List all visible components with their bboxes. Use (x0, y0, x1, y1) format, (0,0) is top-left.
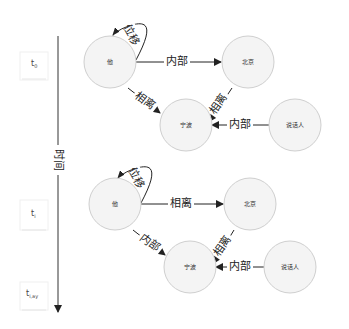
svg-text:他: 他 (112, 200, 118, 208)
edge-label-he-beijing: 相离 (170, 196, 192, 210)
node-speaker[interactable]: 说话人 (264, 241, 316, 293)
time-axis-label: 时间 (52, 149, 65, 171)
svg-text:说话人: 说话人 (286, 121, 304, 129)
node-he[interactable]: 他 (84, 36, 136, 88)
panel-ti: 位移 相离 内部 相离 内部 他 北京 宁波 说话人 (89, 164, 316, 293)
node-ningbo[interactable]: 宁波 (160, 99, 212, 151)
svg-text:说话人: 说话人 (281, 263, 299, 271)
edge-label-he-beijing: 内部 (166, 54, 188, 68)
timeline: 时间 t0 ti ti,ay (20, 36, 66, 312)
svg-text:北京: 北京 (244, 200, 256, 208)
svg-text:北京: 北京 (242, 58, 254, 66)
svg-text:他: 他 (107, 58, 113, 66)
node-ningbo[interactable]: 宁波 (164, 241, 216, 293)
node-he[interactable]: 他 (89, 178, 141, 230)
node-beijing[interactable]: 北京 (224, 178, 276, 230)
node-speaker[interactable]: 说话人 (269, 99, 321, 151)
node-beijing[interactable]: 北京 (222, 36, 274, 88)
diagram-canvas: 时间 t0 ti ti,ay 位移 内部 相离 相离 内部 他 (0, 0, 349, 329)
edge-label-speaker-ningbo: 内部 (229, 259, 251, 273)
edge-label-speaker-ningbo: 内部 (229, 117, 251, 131)
panel-t0: 位移 内部 相离 相离 内部 他 北京 宁波 说话人 (84, 21, 321, 151)
svg-text:宁波: 宁波 (184, 263, 196, 271)
svg-text:宁波: 宁波 (180, 121, 192, 129)
